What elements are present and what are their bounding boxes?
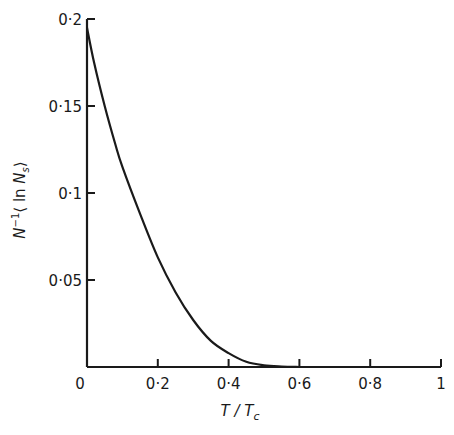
axes — [87, 19, 441, 367]
x-tick-label: 0 — [75, 375, 85, 393]
chart: 00·20·40·60·810·050·10·150·2 T / Tc N−1⟨… — [0, 0, 454, 435]
data-curve — [87, 28, 299, 367]
ticks — [87, 19, 441, 367]
x-tick-label: 1 — [436, 375, 446, 393]
x-tick-label: 0·2 — [146, 375, 170, 393]
x-axis-label: T / Tc — [221, 402, 260, 423]
x-tick-label: 0·8 — [358, 375, 382, 393]
tick-labels: 00·20·40·60·810·050·10·150·2 — [49, 11, 446, 393]
x-tick-label: 0·6 — [287, 375, 311, 393]
y-tick-label: 0·2 — [58, 11, 82, 29]
y-tick-label: 0·1 — [58, 185, 82, 203]
y-tick-label: 0·05 — [49, 272, 82, 290]
y-tick-label: 0·15 — [49, 98, 82, 116]
x-tick-label: 0·4 — [217, 375, 241, 393]
y-axis-label: N−1⟨ ln Ns⟩ — [10, 161, 31, 238]
